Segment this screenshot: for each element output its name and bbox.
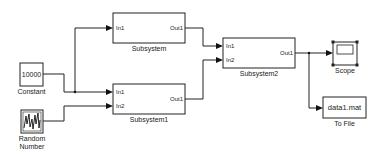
tofile-filename: data1.mat (328, 103, 362, 112)
subsystem1-in2-port: In2 (116, 103, 125, 109)
subsystem-label: Subsystem (132, 45, 167, 53)
subsystem2-out1-port: Out1 (280, 50, 294, 56)
line-branch-to-tofile[interactable] (309, 53, 318, 108)
branch-point (74, 91, 76, 93)
constant-label: Constant (17, 88, 45, 95)
constant-block[interactable]: 10000 Constant (17, 63, 45, 95)
tofile-block[interactable]: data1.mat To File (323, 97, 366, 127)
line-branch-to-subsystem[interactable] (75, 28, 108, 92)
random-number-block[interactable]: Random Number (19, 110, 46, 150)
subsystem-out1-port: Out1 (170, 25, 184, 31)
tofile-label: To File (334, 120, 355, 127)
subsystem2-in2-port: In2 (226, 57, 235, 63)
branch-point (308, 52, 310, 54)
subsystem2-in1-port: In1 (226, 43, 235, 49)
line-random-to-subsystem1[interactable] (43, 106, 108, 121)
line-subsystem1-to-subsystem2[interactable] (185, 60, 218, 99)
subsystem1-in1-port: In1 (116, 89, 125, 95)
scope-label: Scope (335, 67, 355, 75)
random-label-line2: Number (20, 143, 46, 150)
subsystem-in1-port: In1 (116, 25, 125, 31)
line-subsystem-to-subsystem2[interactable] (185, 28, 218, 46)
constant-value: 10000 (22, 71, 42, 78)
scope-block[interactable]: Scope (332, 41, 359, 76)
subsystem2-label: Subsystem2 (240, 70, 279, 78)
subsystem-block[interactable]: In1 Out1 Subsystem (113, 13, 185, 53)
subsystem2-block[interactable]: In1 In2 Out1 Subsystem2 (223, 38, 295, 78)
subsystem1-out1-port: Out1 (170, 96, 184, 102)
subsystem1-block[interactable]: In1 In2 Out1 Subsystem1 (113, 84, 185, 124)
subsystem1-label: Subsystem1 (130, 116, 169, 124)
simulink-canvas: 10000 Constant Random Number In1 Out1 Su… (0, 0, 383, 156)
random-label-line1: Random (19, 135, 46, 142)
